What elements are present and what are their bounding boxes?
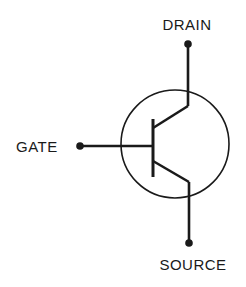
drain-label: DRAIN bbox=[162, 16, 211, 33]
gate-label: GATE bbox=[16, 138, 58, 155]
transistor-diagram: DRAIN GATE SOURCE bbox=[0, 0, 246, 287]
gate-terminal bbox=[76, 142, 153, 150]
source-label: SOURCE bbox=[159, 256, 226, 273]
transistor-envelope-circle bbox=[121, 90, 229, 198]
drain-terminal bbox=[153, 40, 192, 128]
source-terminal-dot bbox=[185, 239, 193, 247]
source-diagonal bbox=[153, 161, 189, 182]
drain-diagonal bbox=[153, 106, 188, 128]
source-terminal bbox=[153, 161, 193, 247]
